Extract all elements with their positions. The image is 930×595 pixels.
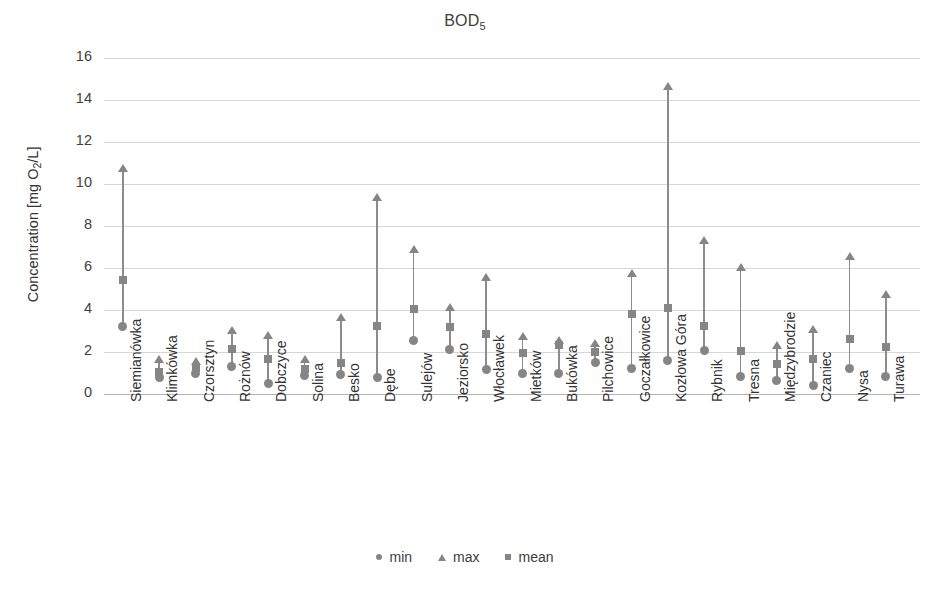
marker-mean [846,335,854,343]
marker-mean [773,360,781,368]
gridline [104,268,920,269]
marker-mean [809,355,817,363]
y-tick-label: 16 [52,48,92,64]
marker-mean [737,347,745,355]
y-tick-label: 0 [52,384,92,400]
marker-max [409,245,419,253]
marker-mean [700,322,708,330]
x-tick-label: Nysa [855,370,871,402]
gridline [104,184,920,185]
marker-max [372,193,382,201]
marker-min [772,376,781,385]
marker-max [663,82,673,90]
range-line [703,240,705,351]
y-axis-title-prefix: Concentration [mg O [25,169,41,303]
marker-min [881,372,890,381]
y-tick-label: 10 [52,174,92,190]
chart-title-subscript: 5 [479,20,485,32]
legend-entry: mean [505,549,553,565]
marker-mean [119,276,127,284]
range-line [667,86,669,360]
marker-max [518,332,528,340]
x-tick-label: Czorsztyn [201,340,217,402]
marker-min [191,369,200,378]
marker-max [627,269,637,277]
x-tick-label: Rożnów [237,351,253,402]
marker-max [336,313,346,321]
marker-min [591,358,600,367]
x-tick-label: Międzybrodzie [782,312,798,402]
marker-max [881,290,891,298]
range-line [376,197,378,378]
marker-min [336,370,345,379]
marker-min [518,369,527,378]
x-tick-label: Turawa [891,356,907,402]
marker-min [663,356,672,365]
marker-max [772,341,782,349]
legend-entry: min [376,549,412,565]
y-axis-title-subscript: 2 [31,163,43,169]
x-tick-label: Włocławek [491,335,507,402]
marker-min [227,362,236,371]
x-tick-label: Dębe [382,369,398,402]
x-tick-label: Rybnik [709,359,725,402]
y-tick-label: 8 [52,216,92,232]
marker-max [227,326,237,334]
x-tick-label: Solina [310,363,326,402]
x-tick-label: Mietków [528,351,544,402]
marker-max [590,339,600,347]
range-line [122,168,124,327]
marker-mean [882,343,890,351]
legend-square-icon [505,554,511,560]
marker-mean [628,310,636,318]
legend-label: min [389,549,412,565]
marker-max [481,273,491,281]
range-line [740,267,742,376]
legend-label: max [453,549,479,565]
marker-min [627,364,636,373]
marker-min [264,379,273,388]
marker-max [263,331,273,339]
legend-circle-icon [376,554,382,560]
marker-min [700,346,709,355]
gridline [104,226,920,227]
marker-min [300,371,309,380]
range-line [485,277,487,369]
marker-max [118,164,128,172]
y-tick-label: 14 [52,90,92,106]
marker-max [699,236,709,244]
legend-triangle-icon [438,554,446,561]
x-tick-label: Dobczyce [273,341,289,402]
y-tick-label: 12 [52,132,92,148]
x-tick-label: Klimkówka [164,335,180,402]
marker-min [118,322,127,331]
gridline [104,58,920,59]
marker-min [736,372,745,381]
marker-mean [664,304,672,312]
gridline [104,100,920,101]
marker-max [845,252,855,260]
marker-max [300,355,310,363]
x-tick-label: Siemianówka [128,319,144,402]
marker-max [154,355,164,363]
marker-mean [482,330,490,338]
marker-max [445,303,455,311]
marker-min [155,373,164,382]
y-tick-label: 6 [52,258,92,274]
x-tick-label: Czaniec [818,351,834,402]
marker-min [409,336,418,345]
chart-title-base: BOD [444,12,479,29]
marker-mean [373,322,381,330]
marker-mean [519,349,527,357]
marker-min [482,365,491,374]
range-line [413,249,415,340]
x-tick-label: Jeziorsko [455,343,471,402]
chart-title: BOD5 [0,12,930,32]
legend-entry: max [438,549,479,565]
marker-max [808,325,818,333]
marker-mean [446,323,454,331]
y-tick-label: 4 [52,300,92,316]
marker-min [845,364,854,373]
range-line [885,294,887,376]
x-tick-label: Bukówka [564,345,580,402]
